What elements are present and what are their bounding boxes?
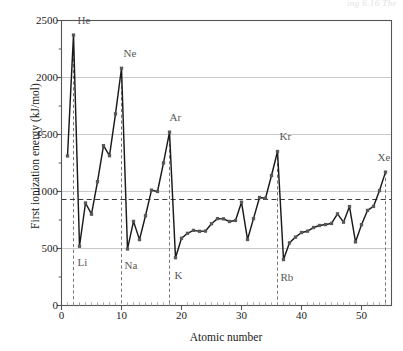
data-line bbox=[68, 35, 386, 259]
data-point-V bbox=[198, 230, 201, 233]
data-point-Fe bbox=[216, 217, 219, 220]
gridlines bbox=[62, 21, 392, 249]
data-point-Si bbox=[144, 214, 147, 217]
plot-canvas bbox=[0, 0, 403, 351]
x-tick-label-0: 0 bbox=[47, 310, 77, 321]
y-tick-label-1500: 1500 bbox=[24, 129, 58, 140]
x-tick-label-30: 30 bbox=[227, 310, 257, 321]
data-point-B bbox=[90, 213, 93, 216]
y-axis-tick-labels: 05001000150020002500 bbox=[20, 0, 58, 351]
data-point-Ca bbox=[180, 237, 183, 240]
data-point-Cd bbox=[348, 205, 351, 208]
data-point-I bbox=[378, 189, 381, 192]
data-point-Ni bbox=[228, 220, 231, 223]
x-axis-title: Atomic number bbox=[61, 331, 391, 343]
data-point-Mg bbox=[132, 220, 135, 223]
element-label-kr: Kr bbox=[280, 131, 292, 142]
data-point-Sr bbox=[288, 241, 291, 244]
data-point-He bbox=[72, 33, 75, 36]
data-point-Cl bbox=[162, 161, 165, 164]
y-tick-label-0: 0 bbox=[24, 300, 58, 311]
data-point-Pd bbox=[336, 212, 339, 215]
data-point-Be bbox=[84, 201, 87, 204]
data-point-Zr bbox=[300, 231, 303, 234]
element-label-rb: Rb bbox=[281, 272, 294, 283]
data-point-Rb bbox=[282, 258, 285, 261]
x-tick-label-20: 20 bbox=[167, 310, 197, 321]
data-point-Li bbox=[78, 245, 81, 248]
y-tick-label-2500: 2500 bbox=[24, 15, 58, 26]
caption-remnant: ing 6.16 The bbox=[347, 0, 397, 8]
x-tick-label-50: 50 bbox=[347, 310, 377, 321]
data-point-Al bbox=[138, 238, 141, 241]
data-point-Te bbox=[372, 205, 375, 208]
data-point-Rh bbox=[330, 222, 333, 225]
data-point-F bbox=[114, 112, 117, 115]
axis-ticks bbox=[57, 21, 386, 311]
data-point-As bbox=[258, 196, 261, 199]
data-point-Cu bbox=[234, 219, 237, 222]
element-label-xe: Xe bbox=[378, 152, 391, 163]
element-label-k: K bbox=[175, 270, 183, 281]
data-point-K bbox=[174, 256, 177, 259]
x-tick-label-10: 10 bbox=[107, 310, 137, 321]
data-point-Sb bbox=[366, 209, 369, 212]
data-point-P bbox=[150, 188, 153, 191]
data-point-Ru bbox=[324, 223, 327, 226]
data-point-Ar bbox=[168, 130, 171, 133]
data-markers bbox=[66, 33, 387, 261]
data-point-Ag bbox=[342, 221, 345, 224]
data-point-Nb bbox=[306, 230, 309, 233]
element-label-na: Na bbox=[125, 260, 138, 271]
data-point-Ne bbox=[120, 67, 123, 70]
y-tick-label-2000: 2000 bbox=[24, 72, 58, 83]
data-point-N bbox=[102, 144, 105, 147]
data-point-Sn bbox=[360, 223, 363, 226]
element-label-ar: Ar bbox=[170, 112, 182, 123]
data-point-Co bbox=[222, 217, 225, 220]
y-tick-label-500: 500 bbox=[24, 243, 58, 254]
data-point-Zn bbox=[240, 201, 243, 204]
data-point-Kr bbox=[276, 150, 279, 153]
data-point-Tc bbox=[318, 224, 321, 227]
data-point-C bbox=[96, 180, 99, 183]
data-point-Ge bbox=[252, 217, 255, 220]
data-point-In bbox=[354, 240, 357, 243]
data-point-Y bbox=[294, 235, 297, 238]
data-point-H bbox=[66, 154, 69, 157]
element-label-he: He bbox=[78, 15, 91, 26]
data-point-Br bbox=[270, 174, 273, 177]
data-point-Na bbox=[126, 247, 129, 250]
data-point-S bbox=[156, 190, 159, 193]
plot-frame bbox=[62, 21, 392, 306]
data-point-Mo bbox=[312, 226, 315, 229]
data-point-Se bbox=[264, 197, 267, 200]
ionization-energy-figure: ing 6.16 The First ionization energy (kJ… bbox=[0, 0, 403, 351]
data-point-O bbox=[108, 154, 111, 157]
data-point-Mn bbox=[210, 222, 213, 225]
data-point-Xe bbox=[384, 170, 387, 173]
data-point-Sc bbox=[186, 232, 189, 235]
y-tick-label-1000: 1000 bbox=[24, 186, 58, 197]
data-point-Cr bbox=[204, 229, 207, 232]
x-tick-label-40: 40 bbox=[287, 310, 317, 321]
element-label-ne: Ne bbox=[124, 48, 137, 59]
axis-frame bbox=[62, 21, 392, 306]
data-point-Ga bbox=[246, 238, 249, 241]
element-label-li: Li bbox=[78, 257, 88, 268]
ionization-energy-line bbox=[68, 35, 386, 259]
data-point-Ti bbox=[192, 229, 195, 232]
